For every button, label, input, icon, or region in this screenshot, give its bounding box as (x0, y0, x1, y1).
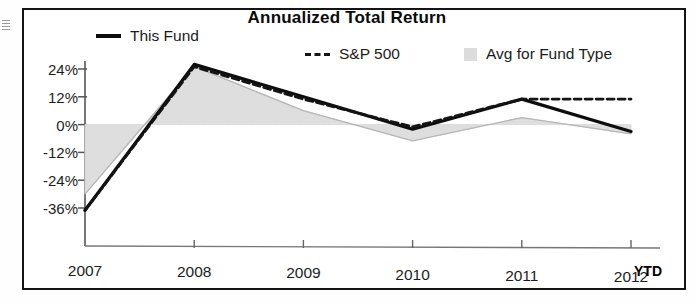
y-axis-tick-label: -24% (16, 172, 78, 189)
x-axis-ytd-label: YTD (634, 263, 662, 279)
y-axis-tick-label: -36% (16, 200, 78, 217)
y-axis-tick-label: 12% (16, 88, 78, 105)
chart-plot-area (0, 0, 694, 305)
x-axis-line (85, 246, 660, 248)
series-line-avg-for-fund-type (85, 67, 631, 194)
series-line-this-fund (85, 64, 631, 210)
x-axis-tick-label: 2008 (177, 263, 211, 281)
x-axis-tick-label: 2007 (68, 262, 102, 280)
y-axis-tick-label: -12% (16, 144, 78, 161)
series-area-avg-for-fund-type (85, 67, 631, 194)
x-axis-tick-label: 2009 (286, 264, 320, 282)
series-line-s-p-500 (85, 67, 631, 211)
y-axis-tick-label: 24% (16, 61, 78, 78)
y-axis-tick-label: 0% (16, 116, 78, 133)
chart-panel: Annualized Total Return This Fund S&P 50… (0, 0, 694, 305)
x-axis-tick-label: 2011 (505, 267, 538, 285)
x-axis-tick-label: 2010 (395, 266, 429, 284)
